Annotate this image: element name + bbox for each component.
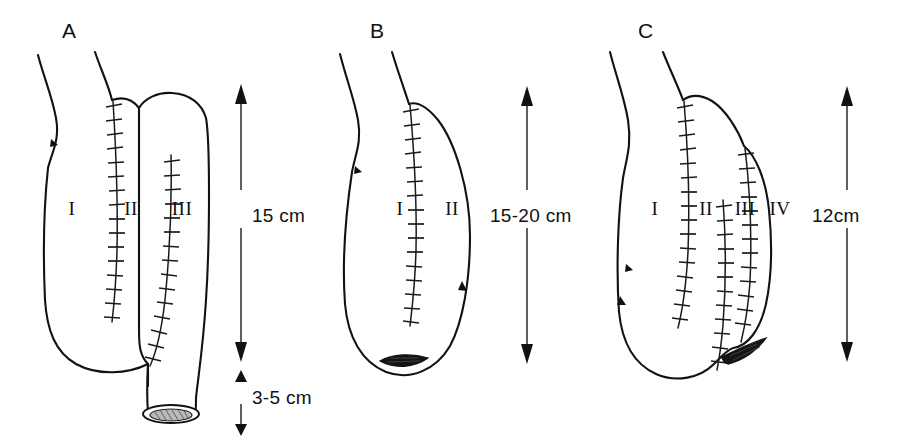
- panel-a-stoma: [143, 405, 199, 423]
- panel-b-pouch-outline: [344, 103, 470, 375]
- panel-a-afferent-limb: [38, 55, 57, 168]
- panel-b-dimension-label-15-20cm: 15-20 cm: [490, 205, 572, 226]
- panel-b-afferent-flow-arrow: [354, 166, 362, 174]
- panel-c-dimension-label-12cm: 12cm: [812, 205, 860, 226]
- panel-c-suture-line-4: [735, 148, 758, 342]
- panel-c: I II III IV 12cm C: [610, 19, 860, 379]
- panel-c-suture-line-2: [672, 101, 697, 328]
- panel-b-suture-line-central: [403, 105, 424, 326]
- panel-b-efferent-limb: [392, 52, 409, 104]
- panel-a-letter: A: [62, 19, 77, 42]
- panel-b-outline-flow-arrow: [458, 281, 467, 291]
- panel-a-segment-numeral-2: II: [124, 198, 138, 219]
- panel-a-pouch-outline: [44, 93, 209, 398]
- panel-b-dimension-15-20cm: 15-20 cm: [490, 86, 572, 364]
- panel-b-stoma: [380, 355, 428, 366]
- panel-c-suture-line-3: [711, 200, 734, 370]
- panel-c-segment-numeral-1: I: [652, 198, 659, 219]
- panel-c-afferent-limb: [610, 52, 629, 178]
- panel-c-dimension-12cm: 12cm: [812, 86, 860, 362]
- panel-a-dimension-label-3-5cm: 3-5 cm: [252, 387, 312, 408]
- panel-a-dimension-3-5cm: 3-5 cm: [235, 370, 312, 436]
- panel-b: I II 15-20 cm B: [340, 19, 572, 375]
- panel-a-segment-numeral-3: III: [172, 198, 192, 219]
- panel-a-suture-line-central: [104, 101, 125, 322]
- panel-a-stoma-tube-left-wall: [147, 364, 148, 413]
- panel-a-dimension-label-15cm: 15 cm: [252, 205, 305, 226]
- panel-c-segment-numeral-2: II: [699, 198, 713, 219]
- panel-a-efferent-limb: [95, 52, 112, 100]
- panel-b-segment-numeral-1: I: [397, 198, 404, 219]
- panel-a-segment-numeral-1: I: [69, 198, 76, 219]
- panel-a-dimension-15cm: 15 cm: [235, 84, 305, 362]
- panel-c-afferent-flow-arrow: [625, 264, 633, 272]
- panel-b-segment-numeral-2: II: [445, 198, 459, 219]
- panel-c-letter: C: [638, 19, 654, 42]
- figure-root: I II III 15 cm 3-5 cm A: [0, 0, 914, 443]
- panel-a-suture-line-right: [145, 155, 181, 366]
- panel-a: I II III 15 cm 3-5 cm A: [38, 19, 312, 436]
- panel-b-letter: B: [370, 19, 385, 42]
- panel-b-afferent-limb: [340, 54, 359, 172]
- ileal-pouch-figure: I II III 15 cm 3-5 cm A: [0, 0, 914, 443]
- panel-c-segment-numeral-3: III: [735, 198, 755, 219]
- panel-c-pouch-outline: [618, 96, 771, 379]
- panel-c-segment-numeral-4: IV: [769, 198, 790, 219]
- panel-c-efferent-limb: [663, 52, 683, 100]
